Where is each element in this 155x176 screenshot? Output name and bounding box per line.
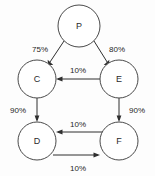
edge-label-e-to-c: 10% [70,66,86,75]
edge-label-c-to-d: 90% [10,106,26,115]
graph-canvas: 75% 80% 10% 90% 90% [0,0,155,176]
node-p[interactable]: P [58,5,100,47]
edge-label-p-to-e: 80% [109,45,125,54]
edge-label-d-to-f: 10% [70,164,86,173]
node-p-label: P [76,21,82,31]
arrowhead-icon [35,116,40,123]
node-c-label: C [34,74,41,84]
node-f[interactable]: F [100,122,138,160]
arrowhead-icon [56,77,63,82]
edge-c-to-d: 90% [10,98,39,122]
edge-d-to-f: 10% [53,153,100,173]
edge-f-to-d: 10% [56,120,103,135]
arrowhead-icon [56,130,63,135]
node-f-label: F [116,136,122,146]
arrowhead-icon [117,116,122,123]
edge-e-to-f: 90% [117,98,145,122]
node-e-label: E [116,74,122,84]
edge-label-e-to-f: 90% [129,106,145,115]
edge-label-p-to-c: 75% [32,45,48,54]
edge-label-f-to-d: 10% [70,120,86,129]
node-d-label: D [34,136,41,146]
arrowhead-icon [94,153,101,158]
node-e[interactable]: E [100,60,138,98]
flow-diagram: 75% 80% 10% 90% 90% [0,0,155,176]
node-d[interactable]: D [18,122,56,160]
node-c[interactable]: C [18,60,56,98]
edge-e-to-c: 10% [56,66,100,82]
